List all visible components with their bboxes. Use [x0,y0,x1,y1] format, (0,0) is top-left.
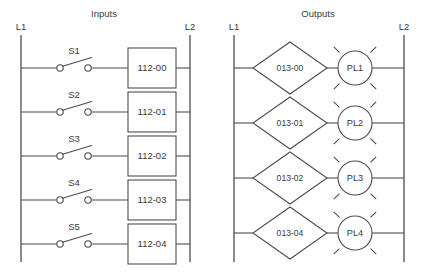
diamond-label: 013-01 [277,118,304,128]
glow-ray [334,102,340,108]
output-coil-box-icon[interactable]: 112-01 [128,92,176,132]
glow-ray [371,102,377,108]
inputs-panel: Inputs L1 L2 S1112-00S2112-01S3112-02S41… [16,8,196,264]
switch-terminal-right [85,241,91,247]
inputs-title: Inputs [91,8,117,19]
output-coil-box-icon[interactable]: 112-00 [128,48,176,88]
output-rung: 013-02PL3 [234,152,404,204]
diagram-svg: Inputs L1 L2 S1112-00S2112-01S3112-02S41… [0,0,427,277]
pilot-light-icon[interactable]: PL4 [334,212,376,254]
pilot-light-icon[interactable]: PL1 [334,47,376,89]
glow-ray [334,84,340,90]
switch-terminal-right [85,153,91,159]
inputs-right-rail-label: L2 [185,21,196,32]
glow-ray [334,47,340,53]
switch-terminal-left [57,241,63,247]
normally-open-switch-icon[interactable] [57,190,92,204]
switch-terminal-right [85,197,91,203]
diamond-label: 013-00 [277,63,304,73]
glow-ray [334,194,340,200]
output-coil-box-icon[interactable]: 112-02 [128,136,176,176]
contact-diamond-icon[interactable]: 013-01 [253,97,327,149]
box-label: 112-02 [138,150,167,161]
glow-ray [334,249,340,255]
switch-terminal-right [85,65,91,71]
normally-open-switch-icon[interactable] [57,234,92,248]
input-rung: S5112-04 [21,221,190,264]
glow-ray [371,194,377,200]
outputs-panel: Outputs L1 L2 013-00PL1013-01PL2013-02PL… [229,8,410,262]
lamp-label: PL4 [347,228,363,238]
glow-ray [334,212,340,218]
lamp-label: PL3 [347,173,363,183]
box-label: 112-03 [138,194,167,205]
switch-label: S4 [68,177,80,188]
input-rung: S3112-02 [21,133,190,176]
pilot-light-icon[interactable]: PL2 [334,102,376,144]
switch-terminal-right [85,109,91,115]
switch-terminal-left [57,197,63,203]
box-label: 112-01 [138,106,167,117]
output-coil-box-icon[interactable]: 112-03 [128,180,176,220]
switch-label: S3 [68,133,80,144]
glow-ray [371,249,377,255]
switch-terminal-left [57,65,63,71]
output-rung: 013-01PL2 [234,97,404,149]
glow-ray [371,157,377,163]
input-rung: S1112-00 [21,45,190,88]
lamp-label: PL1 [347,63,363,73]
glow-ray [371,84,377,90]
input-rung: S4112-03 [21,177,190,220]
output-coil-box-icon[interactable]: 112-04 [128,224,176,264]
switch-label: S2 [68,89,80,100]
switch-terminal-left [57,153,63,159]
box-label: 112-04 [138,238,167,249]
glow-ray [334,157,340,163]
inputs-left-rail-label: L1 [16,21,27,32]
pilot-light-icon[interactable]: PL3 [334,157,376,199]
glow-ray [371,212,377,218]
contact-diamond-icon[interactable]: 013-04 [253,207,327,259]
box-label: 112-00 [138,62,167,73]
normally-open-switch-icon[interactable] [57,102,92,116]
switch-label: S1 [68,45,80,56]
output-rung: 013-04PL4 [234,207,404,259]
glow-ray [334,139,340,145]
lamp-label: PL2 [347,118,363,128]
normally-open-switch-icon[interactable] [57,146,92,160]
switch-label: S5 [68,221,80,232]
outputs-title: Outputs [301,8,335,19]
contact-diamond-icon[interactable]: 013-00 [253,42,327,94]
output-rung: 013-00PL1 [234,42,404,94]
input-rung: S2112-01 [21,89,190,132]
outputs-right-rail-label: L2 [399,21,410,32]
diamond-label: 013-02 [277,173,304,183]
outputs-left-rail-label: L1 [229,21,240,32]
contact-diamond-icon[interactable]: 013-02 [253,152,327,204]
glow-ray [371,139,377,145]
switch-terminal-left [57,109,63,115]
diamond-label: 013-04 [277,228,304,238]
ladder-diagram-canvas: Inputs L1 L2 S1112-00S2112-01S3112-02S41… [0,0,427,277]
normally-open-switch-icon[interactable] [57,58,92,72]
glow-ray [371,47,377,53]
